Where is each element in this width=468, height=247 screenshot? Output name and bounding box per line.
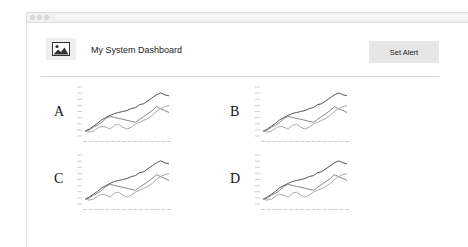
address-bar[interactable] bbox=[55, 15, 468, 19]
x-tick-label bbox=[328, 209, 332, 210]
x-tick-label bbox=[295, 141, 299, 142]
y-tick-label bbox=[77, 136, 82, 137]
x-tick-label bbox=[267, 209, 271, 210]
data-series-line bbox=[263, 174, 347, 201]
x-tick-label bbox=[111, 209, 115, 210]
y-tick-label bbox=[77, 167, 82, 168]
x-tick-label bbox=[100, 209, 104, 210]
y-tick-label bbox=[255, 117, 260, 118]
x-tick-label bbox=[94, 209, 98, 210]
x-tick-label bbox=[111, 141, 115, 142]
y-tick-label bbox=[77, 111, 82, 112]
y-tick-label bbox=[77, 179, 82, 180]
close-window-button[interactable] bbox=[30, 15, 35, 20]
x-tick-label bbox=[150, 209, 154, 210]
x-tick-label bbox=[295, 209, 299, 210]
x-tick-label bbox=[328, 141, 332, 142]
y-tick-label bbox=[77, 191, 82, 192]
line-chart bbox=[253, 84, 349, 146]
y-tick-label bbox=[255, 185, 260, 186]
maximize-window-button[interactable] bbox=[44, 15, 49, 20]
chart-d[interactable] bbox=[253, 152, 349, 214]
y-tick-label bbox=[255, 161, 260, 162]
x-tick-label bbox=[306, 209, 310, 210]
y-tick-label bbox=[255, 87, 260, 88]
x-tick-label bbox=[323, 209, 327, 210]
x-tick-label bbox=[167, 209, 171, 210]
x-tick-label bbox=[139, 141, 143, 142]
data-series-line bbox=[85, 174, 169, 201]
y-tick-label bbox=[255, 155, 260, 156]
x-tick-label bbox=[128, 209, 132, 210]
y-tick-label bbox=[255, 167, 260, 168]
x-tick-label bbox=[283, 141, 287, 142]
x-tick-label bbox=[278, 209, 282, 210]
panel-label-a: A bbox=[54, 104, 64, 120]
x-tick-label bbox=[128, 141, 132, 142]
y-tick-label bbox=[77, 105, 82, 106]
y-tick-label bbox=[77, 197, 82, 198]
x-tick-label bbox=[94, 141, 98, 142]
chart-b[interactable] bbox=[253, 84, 349, 146]
x-tick-label bbox=[323, 141, 327, 142]
x-tick-label bbox=[272, 209, 276, 210]
image-icon bbox=[52, 42, 70, 56]
x-tick-label bbox=[334, 141, 338, 142]
y-tick-label bbox=[255, 129, 260, 130]
x-tick-label bbox=[145, 141, 149, 142]
x-tick-label bbox=[122, 141, 126, 142]
x-tick-label bbox=[306, 141, 310, 142]
x-tick-label bbox=[89, 209, 93, 210]
x-tick-label bbox=[311, 209, 315, 210]
x-tick-label bbox=[156, 209, 160, 210]
chart-c[interactable] bbox=[75, 152, 171, 214]
y-tick-label bbox=[255, 105, 260, 106]
x-tick-label bbox=[339, 209, 343, 210]
x-tick-label bbox=[300, 209, 304, 210]
x-tick-label bbox=[267, 141, 271, 142]
header-divider bbox=[41, 76, 439, 77]
panel-label-b: B bbox=[230, 104, 239, 120]
x-tick-label bbox=[161, 209, 165, 210]
x-tick-label bbox=[161, 141, 165, 142]
x-tick-label bbox=[317, 141, 321, 142]
x-tick-label bbox=[89, 141, 93, 142]
x-tick-label bbox=[167, 141, 171, 142]
y-tick-label bbox=[255, 123, 260, 124]
set-alert-button[interactable]: Set Alert bbox=[369, 41, 439, 63]
x-tick-label bbox=[83, 141, 87, 142]
x-tick-label bbox=[272, 141, 276, 142]
y-tick-label bbox=[255, 136, 260, 137]
y-tick-label bbox=[255, 173, 260, 174]
x-tick-label bbox=[289, 141, 293, 142]
x-tick-label bbox=[133, 209, 137, 210]
x-tick-label bbox=[105, 141, 109, 142]
y-tick-label bbox=[77, 155, 82, 156]
data-series-line bbox=[85, 106, 169, 133]
x-tick-label bbox=[261, 209, 265, 210]
x-tick-label bbox=[100, 141, 104, 142]
y-tick-label bbox=[77, 117, 82, 118]
x-tick-label bbox=[150, 141, 154, 142]
x-tick-label bbox=[278, 141, 282, 142]
chart-a[interactable] bbox=[75, 84, 171, 146]
x-tick-label bbox=[289, 209, 293, 210]
y-tick-label bbox=[77, 87, 82, 88]
panel-label-c: C bbox=[54, 171, 63, 187]
minimize-window-button[interactable] bbox=[37, 15, 42, 20]
y-tick-label bbox=[255, 111, 260, 112]
y-tick-label bbox=[255, 204, 260, 205]
x-tick-label bbox=[105, 209, 109, 210]
y-tick-label bbox=[255, 179, 260, 180]
y-tick-label bbox=[255, 99, 260, 100]
x-tick-label bbox=[117, 141, 121, 142]
y-tick-label bbox=[77, 161, 82, 162]
logo bbox=[46, 38, 76, 60]
line-chart bbox=[75, 152, 171, 214]
y-tick-label bbox=[77, 123, 82, 124]
app-window: My System Dashboard Set Alert A B C D bbox=[26, 12, 468, 247]
x-tick-label bbox=[156, 141, 160, 142]
y-tick-label bbox=[77, 129, 82, 130]
line-chart bbox=[253, 152, 349, 214]
x-tick-label bbox=[145, 209, 149, 210]
